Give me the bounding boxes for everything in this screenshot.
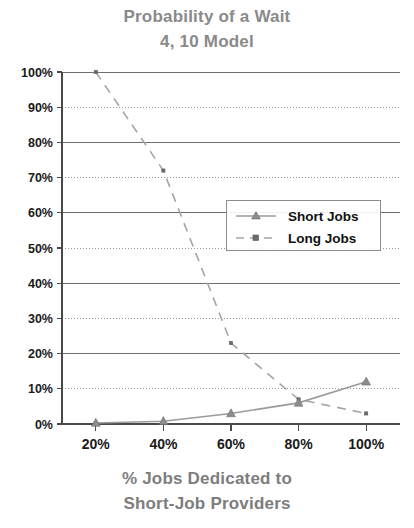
legend-label-short-jobs: Short Jobs [288, 209, 359, 224]
data-point-long-jobs [94, 70, 97, 73]
y-axis-ticks: 0%10%20%30%40%50%60%70%80%90%100% [21, 66, 62, 432]
x-axis-title-line2: Short-Job Providers [0, 491, 414, 516]
y-tick-label: 50% [28, 242, 53, 256]
y-tick-label: 0% [35, 418, 53, 432]
x-tick-label: 20% [82, 436, 111, 452]
y-tick-label: 40% [28, 277, 53, 291]
legend-label-long-jobs: Long Jobs [288, 231, 356, 246]
x-tick-label: 80% [285, 436, 314, 452]
y-tick-label: 60% [28, 206, 53, 220]
x-axis-ticks: 20%40%60%80%100% [82, 424, 385, 452]
data-point-short-jobs [362, 377, 371, 385]
y-tick-label: 80% [28, 136, 53, 150]
data-point-long-jobs [365, 412, 368, 415]
y-tick-label: 100% [21, 66, 53, 80]
y-tick-label: 70% [28, 171, 53, 185]
x-axis-title: % Jobs Dedicated to Short-Job Providers [0, 466, 414, 516]
x-tick-label: 60% [217, 436, 246, 452]
data-point-long-jobs [162, 169, 165, 172]
y-tick-label: 90% [28, 101, 53, 115]
y-tick-label: 20% [28, 347, 53, 361]
data-point-long-jobs [229, 341, 232, 344]
legend[interactable]: Short Jobs Long Jobs [227, 201, 381, 251]
legend-marker-square-icon [253, 235, 259, 241]
chart-svg: 0%10%20%30%40%50%60%70%80%90%100% 20%40%… [0, 0, 414, 460]
x-tick-label: 40% [149, 436, 178, 452]
x-axis-title-line1: % Jobs Dedicated to [122, 469, 292, 488]
series-markers-short-jobs [91, 377, 370, 426]
y-tick-label: 10% [28, 382, 53, 396]
chart-container: Probability of a Wait 4, 10 Model 0%10%2… [0, 0, 414, 528]
plot-area: 0%10%20%30%40%50%60%70%80%90%100% 20%40%… [0, 0, 414, 460]
x-tick-label: 100% [348, 436, 384, 452]
y-tick-label: 30% [28, 312, 53, 326]
